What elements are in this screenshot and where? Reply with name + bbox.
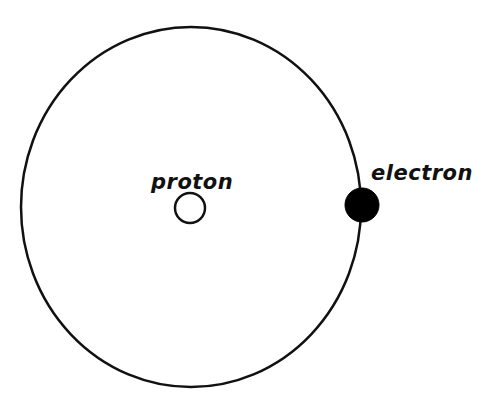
proton-circle <box>175 193 205 223</box>
electron-label: electron <box>371 161 473 185</box>
hydrogen-atom-diagram: proton electron <box>0 0 485 401</box>
proton-label: proton <box>150 170 233 194</box>
electron-dot <box>345 188 379 222</box>
